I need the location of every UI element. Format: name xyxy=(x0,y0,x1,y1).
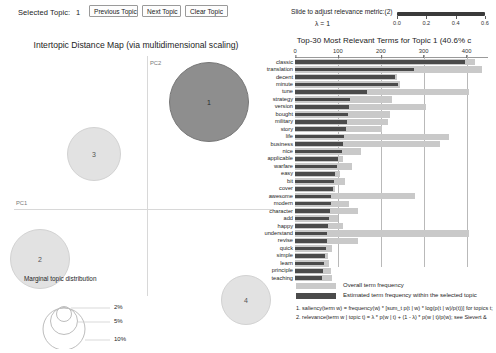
bar-topic-frequency xyxy=(295,276,322,280)
bar-row[interactable]: life xyxy=(295,134,488,140)
top-terms-bar-chart: Top-30 Most Relevant Terms for Topic 1 (… xyxy=(272,34,488,332)
pc2-axis-line xyxy=(147,56,148,296)
bar-row[interactable]: character xyxy=(295,208,488,214)
term-label[interactable]: applicable xyxy=(233,155,293,161)
x-tick-100: 100 xyxy=(333,48,343,54)
term-label[interactable]: minute xyxy=(233,81,293,87)
term-label[interactable]: translation xyxy=(233,66,293,72)
bar-row[interactable]: bought xyxy=(295,111,488,117)
bar-row[interactable]: nice xyxy=(295,148,488,154)
slider-tick-label: 0.2 xyxy=(422,20,430,26)
term-label[interactable]: business xyxy=(233,141,293,147)
bar-row[interactable]: simple xyxy=(295,253,488,259)
bar-row[interactable]: bit xyxy=(295,178,488,184)
term-label[interactable]: character xyxy=(233,208,293,214)
bar-row[interactable]: principle xyxy=(295,268,488,274)
bar-row[interactable]: classic xyxy=(295,59,488,65)
term-label[interactable]: story xyxy=(233,126,293,132)
bar-row[interactable]: translation xyxy=(295,66,488,72)
term-label[interactable]: tune xyxy=(233,88,293,94)
bar-row[interactable]: easy xyxy=(295,171,488,177)
legend-swatch-overall xyxy=(296,283,336,290)
slider-tick-0.6: 0.6 xyxy=(485,16,486,19)
term-label[interactable]: easy xyxy=(233,170,293,176)
bar-topic-frequency xyxy=(295,239,327,243)
selected-topic-value: 1 xyxy=(76,8,80,17)
bar-row[interactable]: strategy xyxy=(295,96,488,102)
term-label[interactable]: strategy xyxy=(233,96,293,102)
term-label[interactable]: life xyxy=(233,133,293,139)
bar-topic-frequency xyxy=(295,60,465,64)
legend-label-topic: Estimated term frequency within the sele… xyxy=(343,292,477,298)
bar-row[interactable]: happy xyxy=(295,223,488,229)
bar-row[interactable]: cover xyxy=(295,186,488,192)
previous-topic-button[interactable]: Previous Topic xyxy=(89,5,138,17)
topic-bubble-label: 3 xyxy=(92,151,96,158)
term-label[interactable]: awesome xyxy=(233,193,293,199)
bar-topic-frequency xyxy=(295,187,333,191)
bar-topic-frequency xyxy=(295,90,367,94)
x-tick-0: 0 xyxy=(293,48,296,54)
relevance-slider-label: Slide to adjust relevance metric:(2) xyxy=(291,8,396,15)
term-label[interactable]: simple xyxy=(233,252,293,258)
term-label[interactable]: quick xyxy=(233,245,293,251)
term-label[interactable]: modern xyxy=(233,200,293,206)
x-tick-400: 400 xyxy=(462,48,472,54)
bar-topic-frequency xyxy=(295,127,346,131)
bar-row[interactable]: teaching xyxy=(295,275,488,281)
bar-row[interactable]: minute xyxy=(295,81,488,87)
term-label[interactable]: teaching xyxy=(233,275,293,281)
bar-row[interactable]: tune xyxy=(295,89,488,95)
marginal-legend-pct-5: 5% xyxy=(114,318,123,324)
marginal-legend-title: Marginal topic distribution xyxy=(24,275,96,282)
term-label[interactable]: happy xyxy=(233,223,293,229)
intertopic-distance-map: Intertopic Distance Map (via multidimens… xyxy=(0,28,272,332)
marginal-legend-pct-2: 2% xyxy=(114,304,123,310)
bar-row[interactable]: version xyxy=(295,104,488,110)
term-label[interactable]: bought xyxy=(233,111,293,117)
bar-topic-frequency xyxy=(295,105,349,109)
term-label[interactable]: cover xyxy=(233,185,293,191)
clear-topic-button[interactable]: Clear Topic xyxy=(185,5,228,17)
topic-bubble-label: 4 xyxy=(244,297,248,304)
relevance-slider-track[interactable] xyxy=(397,12,485,16)
term-label[interactable]: warfare xyxy=(233,163,293,169)
bar-row[interactable]: learn xyxy=(295,260,488,266)
term-label[interactable]: military xyxy=(233,118,293,124)
bar-row[interactable]: story xyxy=(295,126,488,132)
term-label[interactable]: add xyxy=(233,215,293,221)
term-label[interactable]: understand xyxy=(233,230,293,236)
bar-row[interactable]: add xyxy=(295,215,488,221)
bar-row[interactable]: awesome xyxy=(295,193,488,199)
bar-row[interactable]: warfare xyxy=(295,163,488,169)
bar-topic-frequency xyxy=(295,150,342,154)
marginal-topic-distribution-legend: Marginal topic distribution 2% 5% 10% xyxy=(18,275,148,353)
term-label[interactable]: bit xyxy=(233,178,293,184)
bar-row[interactable]: quick xyxy=(295,245,488,251)
bar-topic-frequency xyxy=(295,113,348,117)
slider-tick-mark xyxy=(456,16,457,19)
bar-row[interactable]: business xyxy=(295,141,488,147)
slider-tick-mark xyxy=(397,16,398,19)
bar-row[interactable]: revise xyxy=(295,238,488,244)
term-label[interactable]: learn xyxy=(233,260,293,266)
term-label[interactable]: classic xyxy=(233,59,293,65)
bar-row[interactable]: understand xyxy=(295,230,488,236)
bar-row[interactable]: decent xyxy=(295,74,488,80)
term-label[interactable]: nice xyxy=(233,148,293,154)
selected-topic-label: Selected Topic: xyxy=(18,8,70,17)
term-label[interactable]: decent xyxy=(233,74,293,80)
bar-row[interactable]: modern xyxy=(295,201,488,207)
bar-topic-frequency xyxy=(295,165,337,169)
map-title: Intertopic Distance Map (via multidimens… xyxy=(0,40,272,50)
next-topic-button[interactable]: Next Topic xyxy=(142,5,181,17)
term-label[interactable]: version xyxy=(233,103,293,109)
topic-bubble-4[interactable]: 4 xyxy=(221,275,271,325)
pc1-axis-label: PC1 xyxy=(16,200,27,206)
term-label[interactable]: revise xyxy=(233,237,293,243)
bar-row[interactable]: military xyxy=(295,119,488,125)
bar-row[interactable]: applicable xyxy=(295,156,488,162)
term-label[interactable]: principle xyxy=(233,267,293,273)
relevance-formula: 2. relevance(term w | topic t) = λ * p(w… xyxy=(296,313,496,322)
topic-bubble-3[interactable]: 3 xyxy=(67,127,121,181)
